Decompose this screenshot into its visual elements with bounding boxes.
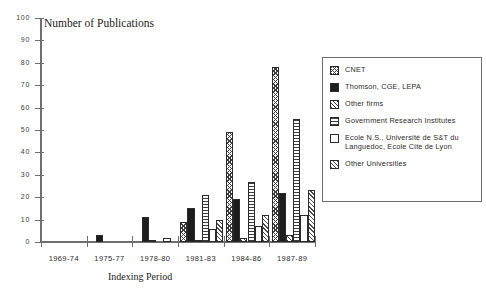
legend-label: Thomson, CGE, LEPA — [345, 82, 421, 91]
legend-label: Other Universities — [345, 159, 407, 168]
legend-swatch-icon — [330, 160, 339, 169]
bar — [300, 215, 307, 242]
bar — [187, 208, 194, 242]
legend-swatch-icon — [330, 66, 339, 75]
bar — [209, 229, 216, 242]
legend-item[interactable]: Other firms — [330, 99, 475, 109]
bar — [195, 240, 202, 242]
chart-legend: CNETThomson, CGE, LEPAOther firmsGovernm… — [322, 57, 482, 202]
bar — [293, 119, 300, 242]
chart-figure: Number of Publications 01020304050607080… — [0, 0, 486, 292]
bar — [180, 222, 187, 242]
bar — [279, 193, 286, 242]
bar — [216, 220, 223, 242]
legend-label: Government Research Institutes — [345, 116, 456, 125]
bar — [149, 240, 156, 242]
bar — [262, 215, 269, 242]
bar — [255, 226, 262, 242]
bar — [163, 238, 170, 242]
bar — [308, 190, 315, 242]
bar — [142, 217, 149, 242]
bar — [248, 182, 255, 242]
legend-swatch-icon — [330, 100, 339, 109]
legend-item[interactable]: Government Research Institutes — [330, 116, 475, 126]
legend-item[interactable]: Ecole N.S., Université de S&T du Langued… — [330, 133, 475, 152]
legend-label: Ecole N.S., Université de S&T du Langued… — [345, 133, 475, 152]
legend-swatch-icon — [330, 83, 339, 92]
bar — [233, 199, 240, 242]
legend-swatch-icon — [330, 117, 339, 126]
bar — [286, 235, 293, 242]
legend-item[interactable]: CNET — [330, 65, 475, 75]
legend-swatch-icon — [330, 134, 339, 143]
bar — [96, 235, 103, 242]
legend-item[interactable]: Thomson, CGE, LEPA — [330, 82, 475, 92]
legend-label: CNET — [345, 65, 366, 74]
bar — [226, 132, 233, 242]
bar — [272, 67, 279, 242]
legend-label: Other firms — [345, 99, 383, 108]
legend-item[interactable]: Other Universities — [330, 159, 475, 169]
bar — [240, 238, 247, 242]
bar — [202, 195, 209, 242]
